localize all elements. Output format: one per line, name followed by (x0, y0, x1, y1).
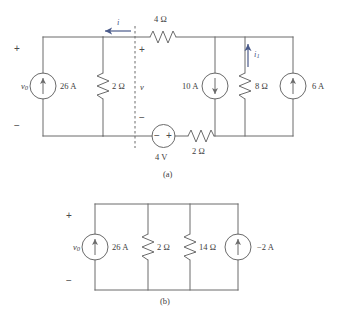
resistor-2ohm-b-label: 2 Ω (157, 243, 170, 252)
branch-plus-a: + (139, 45, 145, 55)
caption-b: (b) (160, 297, 170, 306)
caption-a: (a) (163, 170, 172, 179)
circuit-figure: + − v0 26 A 2 Ω + v − i 4 Ω 10 A 8 Ω i1 … (0, 0, 343, 316)
resistor-8ohm-symbol (239, 73, 251, 99)
branch-minus-a: − (139, 113, 145, 123)
branch-voltage-label-a: v (140, 83, 144, 92)
source-4v-plus-label: + (166, 131, 172, 141)
current-source-10a-symbol (202, 73, 228, 99)
current-source-26a-label: 26 A (60, 82, 76, 91)
source-v0-label-a: v0 (21, 82, 28, 92)
current-i-label: i (117, 18, 119, 27)
circuit-svg (0, 0, 343, 316)
current-source-26a-b-symbol (82, 234, 108, 260)
resistor-14ohm-b-symbol (184, 234, 196, 260)
voltage-source-4v-label: 4 V (155, 153, 167, 162)
source-4v-minus-label: − (154, 131, 160, 141)
resistor-2ohm-left-label: 2 Ω (112, 82, 125, 91)
resistor-2ohm-b-symbol (142, 234, 154, 260)
terminal-plus-b: + (66, 211, 72, 221)
current-source-26a-b-label: 26 A (112, 243, 128, 252)
resistor-14ohm-b-label: 14 Ω (199, 243, 216, 252)
terminal-plus-a: + (14, 44, 20, 54)
current-i1-label: i1 (254, 50, 260, 60)
current-source-6a-symbol (280, 73, 306, 99)
resistor-2ohm-left-symbol (97, 73, 109, 99)
current-source-26a-symbol (30, 73, 56, 99)
source-v0-label-b: v0 (73, 243, 80, 253)
resistor-2ohm-bottom-label: 2 Ω (192, 147, 205, 156)
terminal-minus-a: − (14, 121, 20, 131)
current-source-neg2a-label: −2 A (257, 243, 274, 252)
resistor-4ohm-top-label: 4 Ω (154, 15, 167, 24)
resistor-2ohm-bottom-symbol (188, 130, 214, 142)
resistor-8ohm-label: 8 Ω (255, 82, 268, 91)
current-source-6a-label: 6 A (312, 82, 324, 91)
current-source-10a-label: 10 A (182, 82, 198, 91)
current-source-neg2a-symbol (225, 234, 251, 260)
terminal-minus-b: − (66, 276, 72, 286)
resistor-4ohm-symbol (150, 31, 176, 43)
